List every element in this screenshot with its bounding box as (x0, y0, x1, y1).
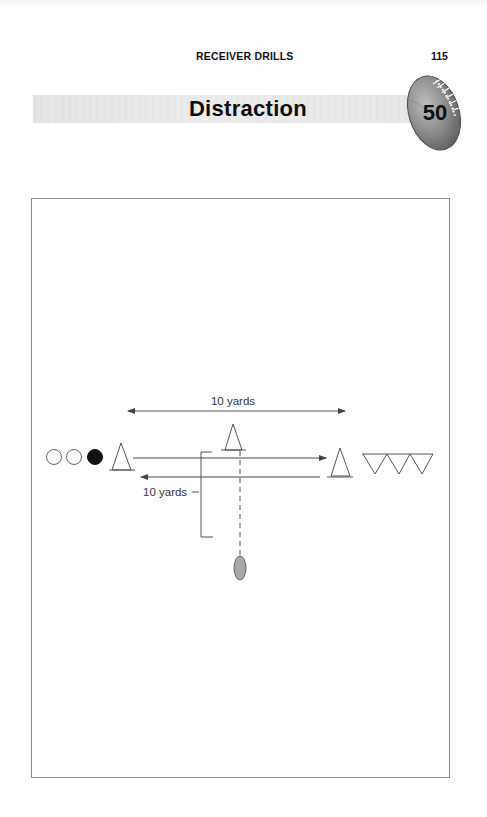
drill-diagram: 10 yards 10 yards (0, 0, 487, 817)
defender-icon-3 (410, 454, 433, 474)
receiver-icon-2 (67, 450, 82, 465)
top-dimension-label: 10 yards (211, 395, 255, 407)
side-dimension-bracket (192, 452, 213, 537)
active-receiver-icon (88, 450, 103, 465)
receiver-icon-1 (47, 450, 62, 465)
defender-icon-2 (387, 454, 410, 474)
defenders-group (362, 454, 433, 474)
middle-cone-icon (221, 424, 246, 450)
end-cone-icon (327, 448, 353, 477)
defender-icon-1 (363, 454, 387, 474)
start-cone-icon (109, 443, 135, 470)
side-dimension-label: 10 yards (143, 486, 187, 498)
football-icon (234, 556, 246, 580)
